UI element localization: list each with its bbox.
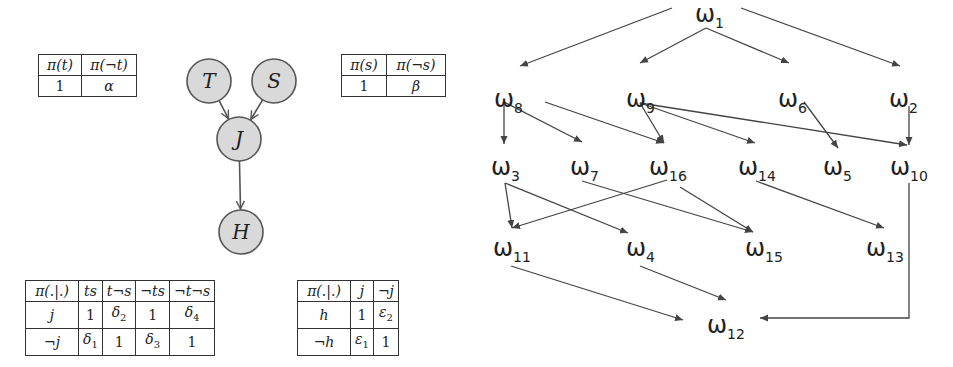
svg-text:ω6: ω6 (778, 85, 807, 116)
edge-omega16-to-omega11 (512, 180, 667, 228)
edge-omega4-to-omega12 (640, 266, 726, 300)
node-omega-4: ω4 (626, 234, 655, 265)
svg-text:ω11: ω11 (493, 234, 531, 265)
edge-omega1-to-omega8 (520, 8, 672, 66)
node-omega-13: ω13 (866, 234, 904, 265)
edge-omega1-to-omega9 (640, 28, 706, 63)
edge-omega6-to-omega5 (804, 102, 838, 148)
node-omega-8: ω8 (494, 85, 523, 116)
edge-omega14-to-omega13 (756, 181, 884, 228)
svg-text:ω9: ω9 (626, 85, 655, 116)
ordering-nodes: ω1ω8ω9ω6ω2ω3ω7ω16ω14ω5ω10ω11ω4ω15ω13ω12 (491, 0, 928, 342)
edge-omega1-to-omega6 (706, 28, 789, 63)
node-omega-1: ω1 (695, 0, 724, 31)
node-omega-3: ω3 (491, 153, 520, 184)
node-omega-16: ω16 (649, 153, 687, 184)
edge-omega3-to-omega11 (505, 183, 512, 228)
node-omega-6: ω6 (778, 85, 807, 116)
edge-omega9-to-omega10 (640, 103, 907, 145)
ordering-edges (504, 8, 909, 320)
node-omega-12: ω12 (707, 311, 745, 342)
edge-omega16-to-omega15 (680, 187, 753, 232)
edge-omega3-to-omega4 (505, 183, 628, 233)
svg-text:ω5: ω5 (823, 153, 852, 184)
node-omega-14: ω14 (738, 153, 776, 184)
node-omega-5: ω5 (823, 153, 852, 184)
svg-text:ω3: ω3 (491, 153, 520, 184)
svg-text:ω12: ω12 (707, 311, 745, 342)
node-omega-11: ω11 (493, 234, 531, 265)
edge-omega1-to-omega2 (741, 8, 900, 66)
edge-omega11-to-omega12 (511, 266, 683, 320)
node-omega-2: ω2 (889, 85, 918, 116)
svg-text:ω16: ω16 (649, 153, 687, 184)
svg-text:ω15: ω15 (745, 234, 783, 265)
edge-omega9-to-omega14 (640, 103, 755, 143)
svg-text:ω1: ω1 (695, 0, 724, 31)
svg-text:ω7: ω7 (570, 153, 599, 184)
node-omega-15: ω15 (745, 234, 783, 265)
interpretation-ordering-graph: ω1ω8ω9ω6ω2ω3ω7ω16ω14ω5ω10ω11ω4ω15ω13ω12 (0, 0, 953, 367)
svg-text:ω4: ω4 (626, 234, 655, 265)
node-omega-9: ω9 (626, 85, 655, 116)
svg-text:ω14: ω14 (738, 153, 776, 184)
svg-text:ω13: ω13 (866, 234, 904, 265)
svg-text:ω8: ω8 (494, 85, 523, 116)
svg-text:ω10: ω10 (890, 153, 928, 184)
node-omega-10: ω10 (890, 153, 928, 184)
svg-text:ω2: ω2 (889, 85, 918, 116)
node-omega-7: ω7 (570, 153, 599, 184)
